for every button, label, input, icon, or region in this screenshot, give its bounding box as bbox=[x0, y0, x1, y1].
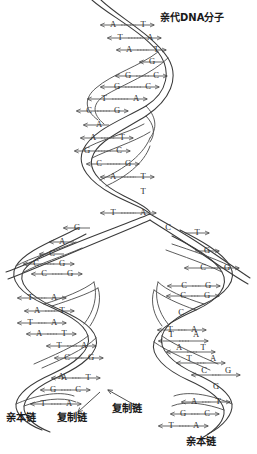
base-right-daughter-a-21: A bbox=[191, 396, 198, 406]
base-right-daughter-c-7: C bbox=[180, 290, 186, 300]
base-parental-a-12: A bbox=[133, 93, 140, 103]
base-parental-a-0: A bbox=[110, 19, 117, 29]
base-right-daughter-g-20: G bbox=[213, 381, 219, 391]
base-left-daughter-g-0: G bbox=[74, 222, 80, 232]
base-right-daughter-g-2: G bbox=[204, 245, 210, 255]
base-left-daughter-c-5: C bbox=[41, 268, 47, 278]
base-right-daughter-g-8: G bbox=[204, 290, 210, 300]
base-parental-c-19: C bbox=[116, 145, 122, 155]
parental-dna-title: 亲代DNA分子 bbox=[160, 11, 224, 23]
label-bottom-left-parent-strand: 亲本链 bbox=[6, 411, 37, 423]
label-bottom-left-copy-strand: 复制链 bbox=[56, 411, 88, 423]
base-right-daughter-t-15: T bbox=[200, 342, 206, 352]
base-parental-t-17: T bbox=[119, 132, 125, 142]
base-parental-a-3: A bbox=[147, 32, 154, 42]
base-left-daughter-t-10: T bbox=[59, 305, 65, 315]
base-right-daughter-g-19: G bbox=[225, 365, 231, 375]
diagram-canvas: ATTAATGGCGCTACGAATGCCGATTTA GACCGCGTAATT… bbox=[0, 0, 257, 454]
base-left-daughter-t-7: T bbox=[27, 292, 33, 302]
base-left-daughter-a-23: A bbox=[58, 371, 65, 381]
base-parental-t-23: T bbox=[140, 171, 146, 181]
base-right-daughter-c-24: C bbox=[204, 408, 210, 418]
base-parental-a-26: A bbox=[140, 207, 147, 217]
base-parental-g-9: G bbox=[114, 81, 120, 91]
base-parental-c-13: C bbox=[86, 105, 92, 115]
base-parental-t-25: T bbox=[110, 207, 116, 217]
base-left-daughter-a-16: A bbox=[81, 340, 88, 350]
left-daughter-base-letters: GACCGCGTAATTAATTACGATGCATA bbox=[27, 222, 94, 408]
base-left-daughter-a-13: A bbox=[36, 328, 43, 338]
base-left-daughter-g-4: G bbox=[59, 258, 65, 268]
label-bottom-right-copy-strand: 复制链 bbox=[111, 402, 143, 414]
parental-helix-backbones bbox=[81, 0, 173, 214]
base-right-daughter-g-23: G bbox=[180, 408, 186, 418]
base-left-daughter-a-9: A bbox=[34, 305, 41, 315]
base-right-daughter-a-13: A bbox=[193, 329, 200, 339]
left-daughter-backbones bbox=[14, 228, 100, 432]
base-left-daughter-c-17: C bbox=[64, 352, 70, 362]
base-parental-a-22: A bbox=[110, 171, 117, 181]
base-left-daughter-g-6: G bbox=[67, 268, 73, 278]
base-left-daughter-g-18: G bbox=[88, 352, 94, 362]
base-right-daughter-a-17: A bbox=[210, 353, 217, 363]
base-parental-t-5: T bbox=[153, 44, 159, 54]
base-right-daughter-c-5: C bbox=[181, 280, 187, 290]
base-right-daughter-t-16: T bbox=[186, 353, 192, 363]
base-left-daughter-t-15: T bbox=[56, 340, 62, 350]
base-left-daughter-t-11: T bbox=[27, 317, 33, 327]
base-left-daughter-a-1: A bbox=[59, 236, 66, 246]
base-left-daughter-t-20: T bbox=[85, 372, 91, 382]
base-parental-t-1: T bbox=[140, 19, 146, 29]
base-right-daughter-c-3: C bbox=[200, 262, 206, 272]
base-parental-c-10: C bbox=[145, 81, 151, 91]
base-parental-g-14: G bbox=[114, 105, 120, 115]
base-parental-g-7: G bbox=[125, 70, 131, 80]
base-left-daughter-c-2: C bbox=[49, 248, 55, 258]
base-left-daughter-c-3: C bbox=[33, 258, 39, 268]
base-right-daughter-c-9: C bbox=[178, 307, 184, 317]
base-left-daughter-a-8: A bbox=[51, 292, 58, 302]
base-parental-t-11: T bbox=[101, 93, 107, 103]
base-parental-g-18: G bbox=[84, 145, 90, 155]
base-left-daughter-a-25: A bbox=[66, 398, 73, 408]
dna-replication-diagram: ATTAATGGCGCTACGAATGCCGATTTA GACCGCGTAATT… bbox=[0, 0, 257, 454]
base-right-daughter-a-26: A bbox=[193, 420, 200, 430]
base-right-daughter-c-0: C bbox=[165, 222, 171, 232]
base-right-daughter-t-1: T bbox=[194, 227, 200, 237]
base-right-daughter-t-12: T bbox=[168, 329, 174, 339]
base-parental-a-16: A bbox=[90, 132, 97, 142]
base-right-daughter-t-25: T bbox=[168, 420, 174, 430]
base-right-daughter-t-22: T bbox=[215, 396, 221, 406]
base-left-daughter-g-21: G bbox=[50, 384, 56, 394]
base-left-daughter-t-14: T bbox=[61, 328, 67, 338]
base-left-daughter-c-22: C bbox=[75, 384, 81, 394]
base-right-daughter-g-4: G bbox=[224, 262, 230, 272]
base-parental-a-4: A bbox=[126, 44, 133, 54]
base-parental-t-2: T bbox=[117, 32, 123, 42]
base-left-daughter-t-24: T bbox=[40, 398, 46, 408]
base-parental-a-15: A bbox=[96, 119, 103, 129]
base-parental-g-21: G bbox=[125, 158, 131, 168]
base-right-daughter-c-18: C bbox=[201, 365, 207, 375]
base-parental-g-6: G bbox=[149, 56, 155, 66]
base-right-daughter-a-14: A bbox=[176, 342, 183, 352]
base-parental-c-20: C bbox=[96, 158, 102, 168]
base-parental-c-8: C bbox=[153, 70, 159, 80]
base-left-daughter-a-12: A bbox=[51, 317, 58, 327]
label-bottom-right-parent-strand: 亲本链 bbox=[186, 435, 217, 447]
base-right-daughter-g-6: G bbox=[205, 280, 211, 290]
base-parental-t-24: T bbox=[140, 186, 146, 196]
